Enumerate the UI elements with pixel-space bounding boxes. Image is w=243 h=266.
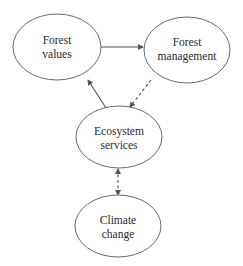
diagram-canvas: Forest values Forest management Ecosyste… (0, 0, 243, 266)
node-forest-management-label-line1: Forest (173, 36, 203, 48)
node-forest-values-label-line2: values (42, 48, 72, 60)
node-ecosystem-services: Ecosystem services (76, 106, 162, 168)
node-forest-values-shape (13, 14, 101, 80)
node-ecosystem-services-label-line1: Ecosystem (94, 125, 144, 138)
edge-forest-management-to-ecosystem-services (130, 80, 151, 107)
node-forest-values-label-line1: Forest (43, 34, 73, 46)
node-forest-management-label-line2: management (158, 50, 218, 63)
node-climate-change-shape (75, 195, 161, 257)
node-forest-management: Forest management (144, 17, 230, 83)
edge-ecosystem-services-to-forest-values (88, 80, 106, 108)
node-ecosystem-services-shape (76, 106, 162, 168)
node-climate-change-label-line1: Climate (100, 214, 136, 226)
node-climate-change-label-line2: change (102, 228, 135, 241)
node-ecosystem-services-label-line2: services (100, 139, 138, 151)
node-forest-values: Forest values (13, 14, 101, 80)
node-climate-change: Climate change (75, 195, 161, 257)
